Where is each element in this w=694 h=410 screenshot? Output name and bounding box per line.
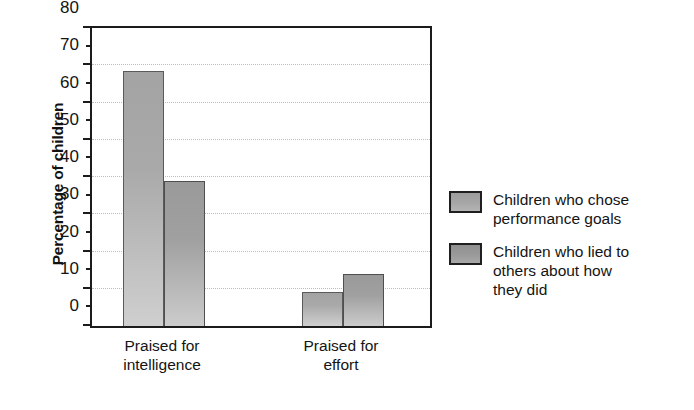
y-axis-minor-tick (86, 156, 92, 158)
y-axis-tick (83, 101, 92, 103)
y-axis-tick-label: 0 (70, 296, 79, 316)
legend-label-line: Children who chose (493, 190, 629, 209)
bar (164, 181, 205, 326)
y-axis-minor-tick (86, 194, 92, 196)
legend-swatch (449, 243, 482, 265)
y-axis-tick-label: 10 (60, 259, 79, 279)
y-axis-tick (83, 138, 92, 140)
gridline (92, 64, 430, 65)
y-axis-minor-tick (86, 45, 92, 47)
y-axis-tick (83, 212, 92, 214)
plot-area: 01020304050607080 (90, 26, 432, 328)
y-axis-tick (83, 175, 92, 177)
y-axis-tick-label: 50 (60, 110, 79, 130)
legend-label-line: they did (493, 280, 629, 299)
y-axis-tick-label: 70 (60, 35, 79, 55)
bar (123, 71, 164, 326)
x-axis-category-label-line: Praised for (82, 336, 242, 355)
y-axis-tick (83, 63, 92, 65)
x-axis-category-label: Praised forintelligence (82, 336, 242, 374)
y-axis-tick-label: 60 (60, 73, 79, 93)
x-axis-category-label-line: intelligence (82, 355, 242, 374)
x-axis-category-label: Praised foreffort (261, 336, 421, 374)
y-axis-tick-label: 20 (60, 222, 79, 242)
legend-label-line: performance goals (493, 209, 629, 228)
bar (343, 274, 384, 326)
bar (302, 292, 343, 326)
y-axis-tick (83, 26, 92, 28)
y-axis-minor-tick (86, 82, 92, 84)
bar-chart-figure: Percentage of children 01020304050607080… (0, 0, 694, 410)
y-axis-tick (83, 287, 92, 289)
y-axis-minor-tick (86, 231, 92, 233)
legend: Children who choseperformance goalsChild… (449, 190, 689, 313)
y-axis-tick-label: 30 (60, 184, 79, 204)
x-axis-category-label-line: effort (261, 355, 421, 374)
legend-label: Children who lied toothers about howthey… (493, 242, 629, 299)
y-axis-tick (83, 324, 92, 326)
legend-item[interactable]: Children who lied toothers about howthey… (449, 242, 689, 299)
legend-label-line: Children who lied to (493, 242, 629, 261)
legend-label: Children who choseperformance goals (493, 190, 629, 228)
y-axis-tick-label: 40 (60, 147, 79, 167)
legend-swatch (449, 191, 482, 213)
y-axis-minor-tick (86, 268, 92, 270)
y-axis-minor-tick (86, 305, 92, 307)
y-axis-minor-tick (86, 119, 92, 121)
y-axis-tick-label: 80 (60, 0, 79, 18)
plot-inner: 01020304050607080 (92, 28, 430, 326)
legend-label-line: others about how (493, 261, 629, 280)
legend-item[interactable]: Children who choseperformance goals (449, 190, 689, 228)
y-axis-tick (83, 250, 92, 252)
x-axis-category-label-line: Praised for (261, 336, 421, 355)
